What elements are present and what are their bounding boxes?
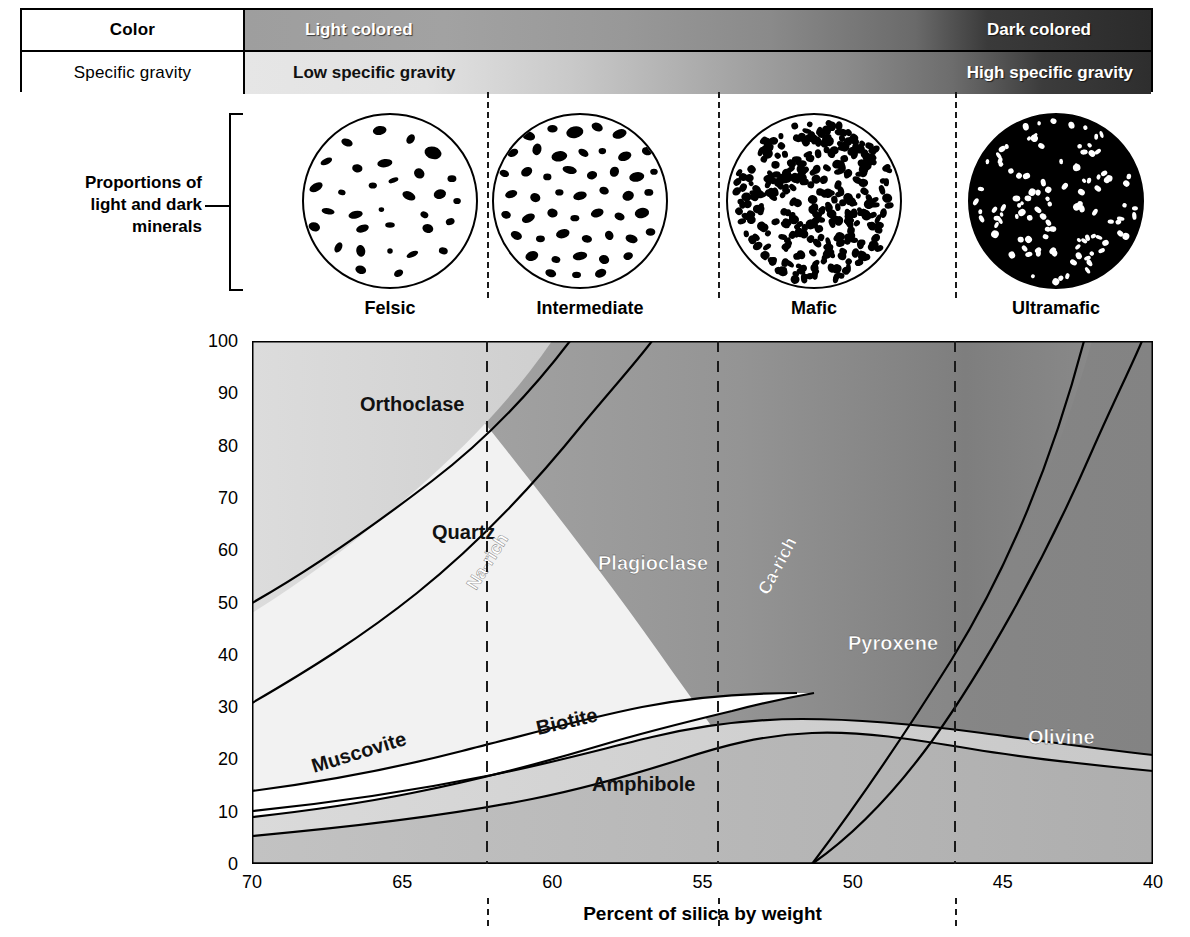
x-axis-title: Percent of silica by weight bbox=[252, 903, 1153, 925]
mineral-composition-chart: Orthoclase Quartz Plagioclase Na-rich Ca… bbox=[252, 341, 1153, 864]
dense-speckled-circle bbox=[728, 115, 900, 287]
x-tick-65: 65 bbox=[372, 872, 432, 893]
x-tick-55: 55 bbox=[673, 872, 733, 893]
rock-label-felsic: Felsic bbox=[290, 298, 490, 319]
region-label-amphibole: Amphibole bbox=[592, 773, 695, 795]
y-tick-40: 40 bbox=[192, 646, 238, 664]
x-tick-60: 60 bbox=[522, 872, 582, 893]
x-tick-70: 70 bbox=[222, 872, 282, 893]
medium-speckled-circle bbox=[494, 115, 666, 287]
specific-gravity-row-label: Specific gravity bbox=[22, 52, 245, 94]
light-speckled-circle bbox=[304, 115, 476, 287]
y-tick-10: 10 bbox=[192, 803, 238, 821]
y-axis-tick-labels: 0102030405060708090100 bbox=[186, 341, 238, 864]
color-row: Color Light colored Dark colored bbox=[22, 10, 1151, 52]
y-tick-100: 100 bbox=[192, 332, 238, 350]
specific-gravity-row: Specific gravity Low specific gravity Hi… bbox=[22, 52, 1151, 94]
color-gradient-bar: Light colored Dark colored bbox=[245, 10, 1151, 50]
y-tick-90: 90 bbox=[192, 384, 238, 402]
y-tick-50: 50 bbox=[192, 594, 238, 612]
y-tick-70: 70 bbox=[192, 489, 238, 507]
x-axis-tick-labels: 70656055504540 bbox=[252, 872, 1153, 898]
felsic-proportion-circle bbox=[302, 113, 478, 289]
region-label-plagioclase: Plagioclase bbox=[598, 552, 708, 574]
x-tick-45: 45 bbox=[973, 872, 1033, 893]
region-label-olivine: Olivine bbox=[1028, 726, 1095, 748]
proportions-bracket bbox=[229, 113, 243, 291]
divider-bottom-mafic-ultramafic bbox=[955, 898, 957, 926]
ultramafic-proportion-circle bbox=[968, 113, 1144, 289]
low-specific-gravity-text: Low specific gravity bbox=[293, 52, 456, 94]
intermediate-proportion-circle bbox=[492, 113, 668, 289]
y-tick-60: 60 bbox=[192, 541, 238, 559]
region-label-orthoclase: Orthoclase bbox=[360, 393, 464, 415]
divider-top-mafic-ultramafic bbox=[955, 92, 957, 298]
y-tick-30: 30 bbox=[192, 698, 238, 716]
y-tick-20: 20 bbox=[192, 750, 238, 768]
property-header-table: Color Light colored Dark colored Specifi… bbox=[20, 8, 1153, 92]
x-tick-40: 40 bbox=[1123, 872, 1183, 893]
proportions-label-line2: light and dark bbox=[12, 194, 202, 216]
proportions-label-line3: minerals bbox=[12, 216, 202, 238]
proportions-label-line1: Proportions of bbox=[12, 172, 202, 194]
divider-top-intermediate-mafic bbox=[718, 92, 720, 298]
divider-top-felsic-intermediate bbox=[487, 92, 489, 298]
region-label-quartz: Quartz bbox=[432, 521, 495, 543]
y-tick-0: 0 bbox=[192, 855, 238, 873]
color-row-label: Color bbox=[22, 10, 245, 50]
divider-bottom-felsic-intermediate bbox=[487, 898, 489, 926]
dark-colored-text: Dark colored bbox=[987, 10, 1091, 50]
y-tick-80: 80 bbox=[192, 437, 238, 455]
mafic-proportion-circle bbox=[726, 113, 902, 289]
divider-bottom-intermediate-mafic bbox=[718, 898, 720, 926]
proportions-leader-line bbox=[205, 205, 229, 207]
proportions-label: Proportions of light and dark minerals bbox=[12, 172, 202, 238]
chart-svg: Orthoclase Quartz Plagioclase Na-rich Ca… bbox=[252, 341, 1153, 864]
dark-circle-white-specks bbox=[970, 115, 1142, 287]
region-label-pyroxene: Pyroxene bbox=[848, 632, 938, 654]
light-colored-text: Light colored bbox=[305, 10, 413, 50]
rock-label-intermediate: Intermediate bbox=[490, 298, 690, 319]
rock-label-mafic: Mafic bbox=[714, 298, 914, 319]
specific-gravity-gradient-bar: Low specific gravity High specific gravi… bbox=[245, 52, 1151, 94]
rock-label-ultramafic: Ultramafic bbox=[956, 298, 1156, 319]
high-specific-gravity-text: High specific gravity bbox=[967, 52, 1133, 94]
x-tick-50: 50 bbox=[823, 872, 883, 893]
